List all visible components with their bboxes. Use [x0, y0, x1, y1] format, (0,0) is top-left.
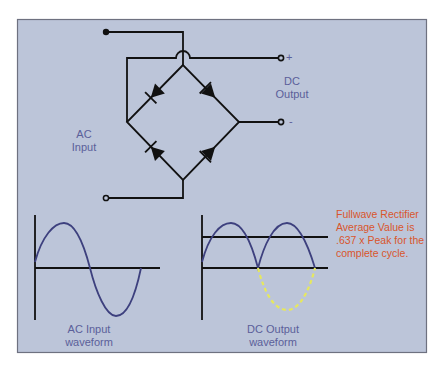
- diagram-panel: [18, 20, 427, 353]
- ac-input-top-terminal: [103, 29, 109, 35]
- ac-input-bottom-terminal: [103, 195, 108, 200]
- ac-waveform-caption: AC Input waveform: [58, 323, 120, 349]
- dc-negative-terminal: [278, 119, 283, 124]
- dc-negative-label: -: [289, 115, 293, 128]
- ac-input-label: AC Input: [66, 128, 102, 154]
- average-value-annotation: Fullwave Rectifier Average Value is .637…: [336, 208, 424, 260]
- bridge-rectifier-diagram: [0, 0, 446, 371]
- dc-output-label: DC Output: [270, 75, 314, 101]
- dc-waveform-caption: DC Output waveform: [238, 323, 308, 349]
- dc-positive-label: +: [286, 51, 292, 64]
- dc-positive-terminal: [278, 55, 283, 60]
